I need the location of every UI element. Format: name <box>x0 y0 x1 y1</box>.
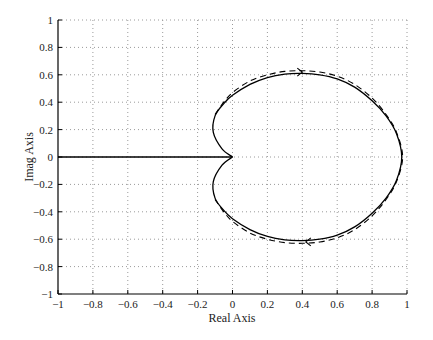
y-tick-label: 0.2 <box>39 124 53 136</box>
y-axis-label: Imag Axis <box>22 132 36 182</box>
nyquist-chart: −1−0.8−0.6−0.4−0.200.20.40.60.81 −1−0.8−… <box>0 0 433 340</box>
x-axis-label: Real Axis <box>209 311 256 325</box>
figure-background <box>0 0 433 340</box>
x-tick-label: 0.8 <box>365 298 379 310</box>
y-tick-label: −0.2 <box>33 178 53 190</box>
x-tick-label: −0.8 <box>83 298 103 310</box>
x-tick-label: −0.4 <box>153 298 173 310</box>
y-tick-label: −0.8 <box>33 261 53 273</box>
x-tick-label: 0.4 <box>295 298 309 310</box>
x-tick-label: −0.6 <box>118 298 138 310</box>
x-tick-label: 1 <box>404 298 410 310</box>
y-tick-label: −1 <box>41 288 53 300</box>
x-tick-label: 0 <box>230 298 236 310</box>
y-tick-label: 0.6 <box>39 69 53 81</box>
y-tick-label: −0.6 <box>33 233 53 245</box>
y-tick-label: −0.4 <box>33 206 53 218</box>
x-tick-label: 0.6 <box>330 298 344 310</box>
y-tick-label: 1 <box>48 14 54 26</box>
x-tick-label: 0.2 <box>261 298 275 310</box>
y-tick-label: 0.8 <box>39 41 53 53</box>
x-tick-label: −0.2 <box>188 298 208 310</box>
x-tick-label: −1 <box>52 298 64 310</box>
y-tick-label: 0 <box>48 151 54 163</box>
y-tick-label: 0.4 <box>39 96 53 108</box>
